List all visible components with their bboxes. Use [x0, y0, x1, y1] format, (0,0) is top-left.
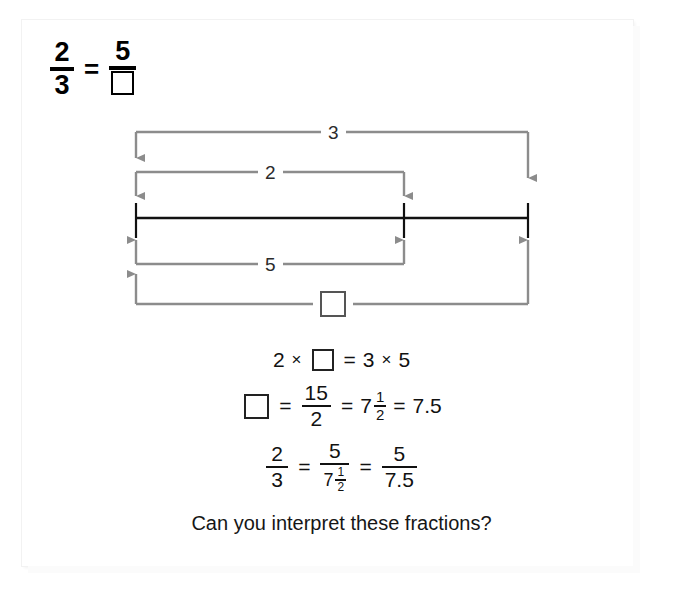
diagram-label-2: 2: [258, 163, 283, 182]
eq3-f2-numerator: 5: [326, 440, 344, 463]
eq3-f3-numerator: 5: [390, 443, 408, 466]
eq2-equals-2: =: [341, 394, 353, 418]
eq3-equals-1: =: [298, 455, 310, 479]
diagram-label-3: 3: [321, 123, 346, 142]
eq1-operand-b: 3: [363, 348, 375, 372]
eq1-operand-c: 5: [398, 348, 410, 372]
top-left-numerator: 2: [52, 39, 71, 67]
top-right-numerator: 5: [113, 38, 132, 66]
top-right-denominator: [109, 70, 136, 100]
unknown-box-icon: [312, 349, 334, 371]
eq2-mixed-numerator: 1: [374, 389, 386, 405]
eq3-f2-denominator-mixed: 7 1 2: [323, 466, 346, 493]
top-equals-sign: =: [84, 54, 99, 85]
eq2-equals-3: =: [393, 394, 405, 418]
page-canvas: 2 3 = 5: [0, 0, 683, 599]
top-equation: 2 3 = 5: [50, 38, 136, 100]
equation-line-2: = 15 2 = 7 1 2 = 7.5: [0, 380, 683, 432]
eq2-mixed-denominator: 2: [374, 407, 386, 423]
eq1-times-icon: ×: [292, 350, 302, 370]
eq3-f2-mixed-denominator: 2: [336, 481, 347, 494]
eq1-times-icon-2: ×: [381, 350, 391, 370]
eq3-fraction-2: 5 7 1 2: [320, 440, 349, 493]
top-left-fraction: 2 3: [50, 39, 74, 99]
eq3-fraction-3: 5 7.5: [382, 443, 417, 491]
eq3-f2-mixed-whole: 7: [323, 471, 333, 490]
eq3-equals-2: =: [359, 455, 371, 479]
eq1-operand-a: 2: [273, 348, 285, 372]
top-right-fraction: 5: [109, 38, 136, 100]
diagram-label-5: 5: [258, 255, 283, 274]
eq3-f2-mixed-fraction: 1 2: [335, 466, 346, 493]
page-frame-bottom-shadow: [28, 566, 639, 573]
top-left-denominator: 3: [52, 71, 71, 99]
eq3-f1-numerator: 2: [268, 443, 286, 466]
eq2-fraction-denominator: 2: [307, 407, 325, 430]
eq2-mixed-fraction: 1 2: [374, 389, 386, 423]
eq2-equals-1: =: [279, 394, 291, 418]
eq2-decimal-value: 7.5: [412, 394, 441, 418]
equation-block: 2 × = 3 × 5 = 15 2 = 7 1 2: [0, 344, 683, 498]
equation-line-1: 2 × = 3 × 5: [0, 344, 683, 376]
eq1-equals-sign: =: [344, 348, 356, 372]
eq3-f2-mixed-numerator: 1: [336, 466, 347, 479]
eq3-f1-denominator: 3: [268, 468, 286, 491]
unknown-box-icon: [244, 394, 269, 419]
eq2-mixed-number: 7 1 2: [360, 389, 386, 423]
eq2-fraction: 15 2: [302, 382, 331, 430]
eq3-fraction-1: 2 3: [266, 443, 288, 491]
diagram-label-unknown-box: [313, 291, 353, 317]
unknown-box-icon: [320, 291, 346, 317]
eq2-mixed-whole: 7: [360, 394, 372, 418]
eq3-f3-denominator: 7.5: [382, 468, 417, 491]
caption-text: Can you interpret these fractions?: [0, 512, 683, 535]
unknown-box-icon: [111, 71, 134, 95]
eq3-f2-denominator: 7 1 2: [320, 465, 349, 493]
eq2-fraction-numerator: 15: [302, 382, 331, 405]
equation-line-3: 2 3 = 5 7 1 2: [0, 436, 683, 498]
